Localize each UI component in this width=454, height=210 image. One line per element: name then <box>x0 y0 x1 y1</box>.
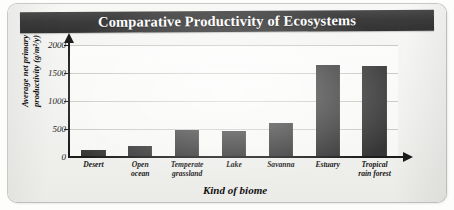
bar-estuary <box>316 65 340 157</box>
chart-title-text: Comparative Productivity of Ecosystems <box>98 12 356 31</box>
chart-screenshot: Comparative Productivity of Ecosystems A… <box>0 0 454 210</box>
y-tick-mark-1500 <box>64 73 69 74</box>
y-tick-label-1000: 1000 <box>32 96 66 106</box>
gridline-1000 <box>70 101 398 102</box>
x-label-line: rain forest <box>345 169 404 178</box>
y-tick-mark-1000 <box>64 101 69 102</box>
x-label-line: Tropical <box>345 160 404 169</box>
y-tick-mark-500 <box>64 129 69 130</box>
gridline-1500 <box>70 73 398 74</box>
bar-tropical-rain-forest <box>362 66 386 157</box>
x-axis-title: Kind of biome <box>70 184 400 196</box>
x-label-line: grassland <box>158 169 217 178</box>
bar-lake <box>222 131 246 157</box>
y-tick-label-1500: 1500 <box>32 68 66 78</box>
bar-temperate-grassland <box>175 130 199 157</box>
y-tick-mark-2000 <box>64 45 69 46</box>
y-tick-label-2000: 2000 <box>32 40 66 50</box>
x-axis-line <box>68 156 404 158</box>
y-axis-line <box>68 41 70 158</box>
gridline-2000 <box>70 45 398 46</box>
plot-area <box>70 45 398 157</box>
bar-savanna <box>269 123 293 157</box>
y-axis-arrow-icon <box>64 33 74 43</box>
y-tick-label-0: 0 <box>32 152 66 162</box>
x-axis-arrow-icon <box>403 152 413 162</box>
y-tick-label-500: 500 <box>32 124 66 134</box>
scanned-page-sheet: Comparative Productivity of Ecosystems A… <box>8 4 446 202</box>
y-axis-tick-labels: 0500100015002000 <box>28 4 66 202</box>
chart-title-banner: Comparative Productivity of Ecosystems <box>20 10 434 34</box>
x-label-tropical-rain-forest: Tropicalrain forest <box>345 160 404 178</box>
x-axis-category-labels: DesertOpenoceanTemperategrasslandLakeSav… <box>70 160 400 186</box>
